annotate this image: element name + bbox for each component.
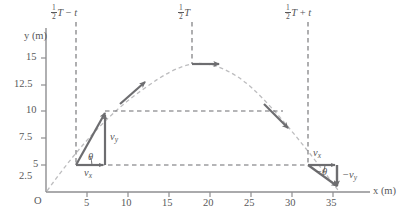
x-tick-35: 35 bbox=[326, 198, 337, 209]
y-tick-7-5: 7.5 bbox=[19, 132, 32, 143]
y-tick-15: 15 bbox=[26, 52, 37, 63]
figure-canvas bbox=[0, 0, 405, 222]
vx-label-left: vx bbox=[84, 168, 92, 180]
x-tick-15: 15 bbox=[162, 198, 173, 209]
y-axis-label: y (m) bbox=[24, 31, 47, 42]
vy-label-right: −vy bbox=[342, 170, 357, 182]
velocity-vector-mid-ascent bbox=[120, 82, 145, 104]
x-tick-30: 30 bbox=[285, 198, 296, 209]
y-tick-10: 10 bbox=[26, 105, 37, 116]
fraction-one-half: 12 bbox=[285, 4, 291, 21]
label-time-at-apex: 12T bbox=[178, 4, 190, 21]
projectile-motion-figure: 12T − t 12T 12T + t y (m) x (m) O 15 12.… bbox=[0, 0, 405, 222]
velocity-vector-mid-descent bbox=[264, 104, 288, 128]
x-tick-20: 20 bbox=[203, 198, 214, 209]
x-tick-25: 25 bbox=[244, 198, 255, 209]
theta-label-left: θ bbox=[88, 152, 93, 163]
fraction-one-half: 12 bbox=[51, 4, 57, 21]
origin-label: O bbox=[34, 196, 42, 207]
vy-label-left: vy bbox=[110, 132, 118, 144]
x-tick-10: 10 bbox=[121, 198, 132, 209]
theta-label-right: −θ bbox=[315, 167, 327, 178]
y-axis-ticks bbox=[41, 58, 46, 165]
label-time-after-apex: 12T + t bbox=[285, 4, 311, 21]
vx-label-right: vx bbox=[313, 148, 321, 160]
x-axis-label: x (m) bbox=[373, 186, 396, 197]
x-tick-5: 5 bbox=[84, 198, 89, 209]
label-time-before-apex: 12T − t bbox=[51, 4, 77, 21]
y-tick-2-5: 2.5 bbox=[19, 171, 32, 182]
fraction-one-half: 12 bbox=[178, 4, 184, 21]
y-tick-5: 5 bbox=[33, 159, 38, 170]
y-tick-12-5: 12.5 bbox=[14, 79, 32, 90]
